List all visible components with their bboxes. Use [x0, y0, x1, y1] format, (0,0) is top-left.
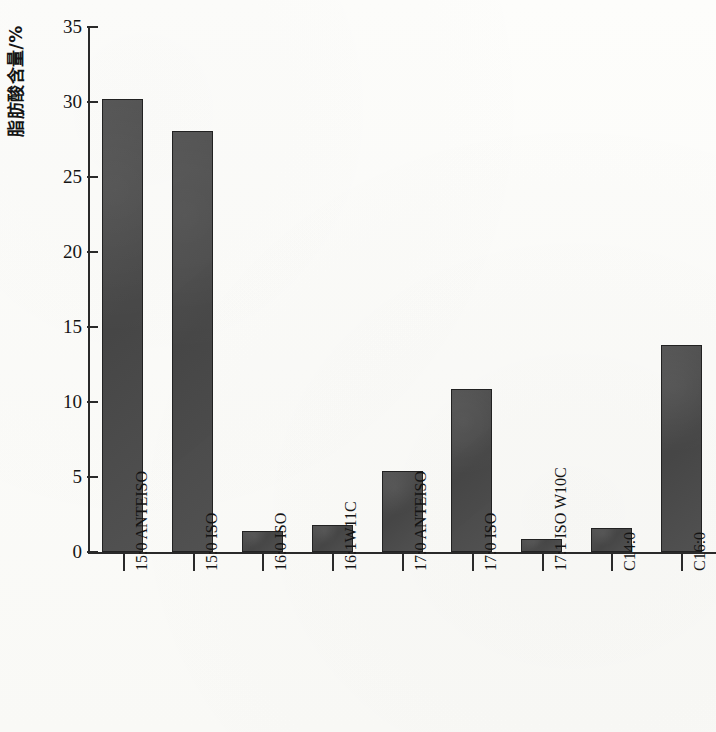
x-tick-label: 15:0 ANTEISO — [131, 365, 153, 575]
y-tick-label: 35 — [42, 16, 82, 38]
x-tick-mark — [542, 554, 544, 571]
x-tick-mark — [193, 554, 195, 571]
x-tick-mark — [123, 554, 125, 571]
y-tick-label: 10 — [42, 391, 82, 413]
x-tick-label: 17:0 ANTEISO — [410, 365, 432, 575]
y-tick-label: 30 — [42, 91, 82, 113]
y-tick-label: 0 — [42, 541, 82, 563]
x-tick-label: 15:0 ISO — [201, 365, 223, 575]
x-tick-label: 16:0 ISO — [270, 365, 292, 575]
x-tick-mark — [681, 554, 683, 571]
x-tick-label: C16:0 — [689, 365, 711, 575]
y-tick-label: 25 — [42, 166, 82, 188]
x-tick-mark — [332, 554, 334, 571]
x-tick-mark — [402, 554, 404, 571]
y-tick-label: 20 — [42, 241, 82, 263]
bar-chart: 脂肪酸含量/% 05101520253035 15:0 ANTEISO15:0 … — [0, 0, 716, 732]
x-tick-mark — [262, 554, 264, 571]
x-tick-label: C14:0 — [619, 365, 641, 575]
x-tick-label: 16:1W11C — [340, 365, 362, 575]
x-tick-label: 17:0 ISO — [480, 365, 502, 575]
x-tick-label: 17:1 ISO W10C — [550, 365, 572, 575]
x-tick-mark — [472, 554, 474, 571]
y-tick-label: 5 — [42, 466, 82, 488]
y-axis-title: 脂肪酸含量/% — [2, 0, 28, 196]
x-tick-mark — [611, 554, 613, 571]
y-tick-label: 15 — [42, 316, 82, 338]
